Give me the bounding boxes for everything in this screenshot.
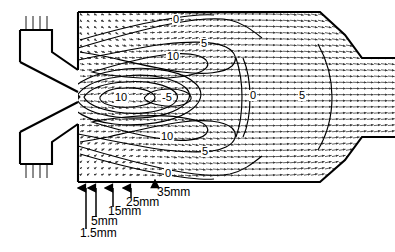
velocity-vector xyxy=(65,122,70,124)
velocity-vector xyxy=(41,139,44,142)
velocity-vector xyxy=(70,84,75,86)
velocity-vector xyxy=(57,129,62,131)
velocity-vector xyxy=(136,39,141,40)
velocity-vector xyxy=(374,125,381,126)
velocity-vector xyxy=(388,70,395,71)
velocity-vector xyxy=(115,149,119,151)
velocity-vector xyxy=(164,157,170,158)
velocity-vector xyxy=(276,175,283,176)
velocity-vector xyxy=(227,63,234,64)
velocity-vector xyxy=(325,26,332,27)
velocity-vector xyxy=(33,139,36,142)
velocity-vector xyxy=(33,146,35,150)
velocity-vector xyxy=(206,119,213,120)
velocity-vector xyxy=(143,88,150,89)
velocity-vector xyxy=(220,26,227,27)
velocity-vector xyxy=(59,69,64,71)
velocity-vector xyxy=(318,64,325,65)
velocity-vector xyxy=(50,66,55,68)
velocity-vector xyxy=(220,169,227,170)
velocity-vector xyxy=(157,75,164,76)
velocity-vector xyxy=(227,26,234,27)
velocity-vector xyxy=(94,101,101,102)
velocity-vector xyxy=(41,52,44,55)
velocity-vector xyxy=(367,70,374,71)
velocity-vector xyxy=(129,137,135,138)
velocity-vector xyxy=(41,153,42,158)
velocity-vector xyxy=(122,20,126,21)
velocity-vector xyxy=(48,59,53,61)
velocity-vector xyxy=(80,167,82,169)
velocity-vector xyxy=(67,125,72,127)
velocity-vector xyxy=(108,107,115,109)
velocity-vector xyxy=(304,51,311,52)
velocity-vector xyxy=(178,94,185,95)
velocity-vector xyxy=(143,107,150,108)
velocity-vector xyxy=(185,107,192,108)
velocity-vector xyxy=(129,162,133,163)
velocity-vector xyxy=(346,51,353,52)
velocity-vector xyxy=(297,138,304,139)
velocity-vector xyxy=(101,81,108,82)
velocity-vector xyxy=(87,107,94,108)
velocity-vector xyxy=(192,44,199,45)
velocity-vector xyxy=(332,143,339,144)
velocity-vector xyxy=(136,33,140,34)
velocity-vector xyxy=(234,51,241,52)
velocity-vector xyxy=(353,125,360,126)
velocity-vector xyxy=(122,174,126,175)
velocity-vector xyxy=(304,64,311,65)
velocity-vector xyxy=(290,150,297,151)
velocity-vector xyxy=(108,149,112,151)
velocity-vector xyxy=(157,57,164,58)
velocity-vector xyxy=(297,156,304,157)
velocity-vector xyxy=(192,175,199,176)
contour-label: 10 xyxy=(160,131,174,142)
velocity-vector xyxy=(171,126,178,127)
velocity-vector xyxy=(171,144,178,145)
velocity-vector xyxy=(283,14,290,15)
velocity-vector xyxy=(297,168,304,169)
velocity-vector xyxy=(101,161,104,163)
velocity-vector xyxy=(108,143,112,144)
velocity-vector xyxy=(220,57,227,58)
velocity-vector xyxy=(63,67,68,69)
velocity-vector xyxy=(108,14,111,15)
velocity-vector xyxy=(220,38,227,39)
velocity-vector xyxy=(101,143,105,144)
velocity-vector xyxy=(115,26,118,27)
velocity-vector xyxy=(136,101,143,102)
velocity-vector xyxy=(192,157,199,158)
velocity-vector xyxy=(178,69,185,70)
velocity-vector xyxy=(381,119,388,120)
velocity-vector xyxy=(353,57,360,58)
velocity-vector xyxy=(192,38,199,39)
velocity-vector xyxy=(67,120,72,122)
velocity-vector xyxy=(129,39,133,40)
velocity-vector xyxy=(150,82,157,83)
velocity-vector xyxy=(332,125,339,126)
velocity-vector xyxy=(381,143,388,144)
velocity-vector xyxy=(33,52,36,55)
velocity-vector xyxy=(199,26,206,27)
velocity-vector xyxy=(199,163,206,164)
velocity-vector xyxy=(325,33,332,34)
velocity-vector xyxy=(178,169,184,170)
velocity-vector xyxy=(381,64,388,65)
velocity-vector xyxy=(122,149,126,150)
velocity-vector xyxy=(199,126,206,127)
velocity-vector xyxy=(57,72,62,74)
velocity-vector xyxy=(185,25,191,26)
velocity-vector xyxy=(136,20,140,21)
velocity-vector xyxy=(87,143,90,145)
velocity-vector xyxy=(374,149,381,151)
velocity-vector xyxy=(143,119,150,120)
contour-label: 10 xyxy=(114,92,128,103)
velocity-vector xyxy=(129,20,133,21)
velocity-vector xyxy=(164,126,171,127)
velocity-vector xyxy=(101,51,105,52)
velocity-vector xyxy=(325,155,332,156)
velocity-vector xyxy=(74,119,79,121)
velocity-vector xyxy=(213,169,220,170)
velocity-vector xyxy=(360,155,367,157)
